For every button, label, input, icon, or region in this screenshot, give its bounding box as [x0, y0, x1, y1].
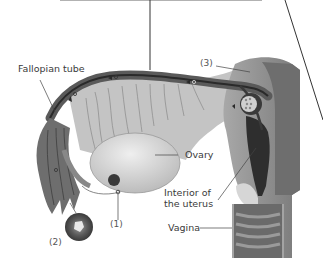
ovary-shape	[90, 133, 180, 193]
label-ovary: Ovary	[185, 149, 213, 160]
anatomy-illustration	[0, 0, 323, 273]
marker-3: (3)	[200, 58, 213, 68]
ovulating-follicle	[108, 174, 120, 186]
label-vagina: Vagina	[168, 222, 200, 233]
label-fallopian-tube: Fallopian tube	[18, 63, 85, 74]
reproductive-diagram: Fallopian tube Ovary Interior of the ute…	[0, 0, 323, 273]
label-interior-uterus-2: the uterus	[164, 198, 213, 209]
marker-2: (2)	[49, 237, 62, 247]
marker-1: (1)	[110, 219, 123, 229]
vagina-canal	[232, 204, 284, 258]
label-interior-uterus-1: Interior of	[164, 187, 211, 198]
